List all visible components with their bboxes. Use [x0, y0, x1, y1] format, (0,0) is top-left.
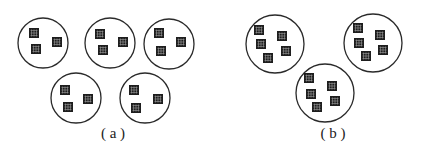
- grid-square-icon: [254, 25, 264, 35]
- grid-square-icon: [31, 44, 41, 54]
- panel-b: [246, 14, 402, 122]
- grid-square-icon: [63, 102, 73, 112]
- grouping-diagram: [0, 0, 421, 154]
- grid-square-icon: [312, 102, 322, 112]
- grid-square-icon: [304, 73, 314, 83]
- group-circle: [51, 73, 101, 123]
- grid-square-icon: [354, 38, 364, 48]
- grid-square-icon: [277, 31, 287, 41]
- grid-square-icon: [281, 46, 291, 56]
- grid-square-icon: [98, 45, 108, 55]
- group-circle: [144, 19, 194, 69]
- panel-a: [18, 18, 194, 123]
- grid-square-icon: [95, 29, 105, 39]
- group-circle: [344, 14, 402, 72]
- grid-square-icon: [306, 89, 316, 99]
- group-circle: [120, 73, 170, 123]
- grid-square-icon: [29, 28, 39, 38]
- circle-outline: [246, 15, 304, 73]
- grid-square-icon: [83, 94, 93, 104]
- group-circle: [18, 18, 68, 68]
- grid-square-icon: [156, 46, 166, 56]
- group-circle: [246, 15, 304, 73]
- grid-square-icon: [60, 85, 70, 95]
- grid-square-icon: [129, 85, 139, 95]
- circle-outline: [144, 19, 194, 69]
- grid-square-icon: [256, 39, 266, 49]
- grid-square-icon: [154, 28, 164, 38]
- panel-b-caption: ( b ): [321, 125, 346, 142]
- grid-square-icon: [353, 23, 363, 33]
- grid-square-icon: [176, 37, 186, 47]
- grid-square-icon: [118, 37, 128, 47]
- grid-square-icon: [330, 96, 340, 106]
- grid-square-icon: [153, 94, 163, 104]
- grid-square-icon: [361, 51, 371, 61]
- panel-a-caption: ( a ): [101, 125, 125, 142]
- grid-square-icon: [52, 37, 62, 47]
- grid-square-icon: [375, 30, 385, 40]
- grid-square-icon: [378, 45, 388, 55]
- circle-outline: [344, 14, 402, 72]
- grid-square-icon: [263, 53, 273, 63]
- group-circle: [296, 64, 354, 122]
- circle-outline: [51, 73, 101, 123]
- circle-outline: [296, 64, 354, 122]
- grid-square-icon: [131, 103, 141, 113]
- group-circle: [85, 18, 135, 68]
- grid-square-icon: [327, 81, 337, 91]
